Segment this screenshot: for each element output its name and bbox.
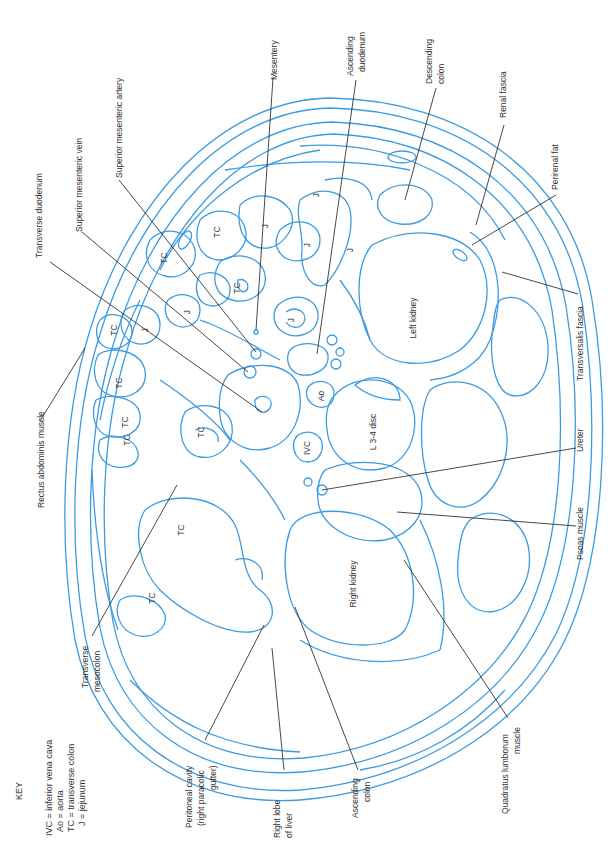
label-transverse-mesocolon-2: mesocolon <box>92 651 102 692</box>
organ-tc-7: TC <box>122 434 132 445</box>
label-peritoneal-cavity-2: (right paracolic <box>196 770 206 826</box>
organ-j-7: J <box>311 193 321 197</box>
organ-tc-1: TC <box>212 226 222 237</box>
key-entry-j: J = jejunum <box>77 780 87 826</box>
psoas-outline <box>318 462 422 540</box>
label-right-lobe-liver-1: Right lobe <box>272 799 282 838</box>
label-transverse-mesocolon-1: Transverse <box>80 646 90 688</box>
label-transverse-duodenum: Transverse duodenum <box>34 173 44 258</box>
label-quadratus-lumborum-1: Quadratus lumborum <box>500 734 510 814</box>
organ-j-1: J <box>260 224 270 228</box>
key-legend: KEY IVC = inferior vena cava Ao = aorta … <box>14 740 87 836</box>
label-descending-colon-1: Descending <box>424 39 434 84</box>
organ-j-2: J <box>302 243 312 247</box>
organ-right-kidney: Right kidney <box>348 560 358 608</box>
organ-outlines <box>93 178 548 661</box>
organ-disc: L 3-4 disc <box>368 413 378 450</box>
label-superior-mesenteric-vein: Superior mesenteric vein <box>74 138 84 232</box>
label-rectus-abdominis: Rectus abdominis muscle <box>36 411 46 508</box>
organ-tc-3: TC <box>232 282 242 293</box>
smv-outline <box>244 366 256 378</box>
descending-colon-outline <box>378 185 433 224</box>
organ-labels: Left kidney Right kidney L 3-4 disc Ao I… <box>109 193 418 608</box>
organ-j-5: J <box>182 310 192 314</box>
organ-tc-4: TC <box>109 324 119 335</box>
organ-left-kidney: Left kidney <box>408 297 418 339</box>
abdomen-cross-section-diagram: Left kidney Right kidney L 3-4 disc Ao I… <box>0 0 614 868</box>
organ-tc-2: TC <box>159 252 169 263</box>
organ-tc-6: TC <box>120 416 130 427</box>
label-superior-mesenteric-artery: Superior mesenteric artery <box>114 77 124 178</box>
label-ascending-colon-2: colon <box>362 781 372 802</box>
callout-labels: Transverse duodenum Superior mesenteric … <box>34 32 585 838</box>
organ-j-4: J <box>286 318 296 322</box>
label-right-lobe-liver-2: of liver <box>284 813 294 838</box>
label-mesentery: Mesentery <box>269 40 279 80</box>
organ-tc-10: TC <box>147 592 157 603</box>
sma-outline <box>251 349 261 359</box>
label-peritoneal-cavity-1: Peritoneal cavity <box>184 765 194 828</box>
organ-aorta: Ao <box>316 391 326 402</box>
organ-tc-9: TC <box>176 524 186 535</box>
organ-j-3: J <box>345 248 355 252</box>
label-peritoneal-cavity-3: gutter) <box>208 765 218 790</box>
key-title: KEY <box>14 782 24 800</box>
organ-tc-5: TC <box>114 377 124 388</box>
key-entry-ao: Ao = aorta <box>55 790 65 832</box>
label-renal-fascia: Renal fascia <box>498 71 508 118</box>
key-entry-ivc: IVC = inferior vena cava <box>44 740 54 836</box>
label-ascending-duodenum-2: duodenum <box>357 32 367 72</box>
key-entry-tc: TC = transverse colon <box>66 744 76 832</box>
label-ascending-colon-1: Ascending <box>350 778 360 818</box>
ascending-duodenum-outline <box>288 344 329 375</box>
label-perirenal-fat: Perirenal fat <box>550 144 560 190</box>
organ-ivc: IVC <box>302 441 312 455</box>
label-transversalis-fascia: Transversalis fascia <box>575 306 585 381</box>
left-kidney-outline <box>359 233 487 363</box>
label-quadratus-lumborum-2: muscle <box>512 727 522 754</box>
label-ascending-duodenum-1: Ascending <box>345 36 355 76</box>
label-psoas-muscle: Psoas muscle <box>575 507 585 560</box>
label-descending-colon-2: colon <box>436 63 446 84</box>
label-ureter: Ureter <box>575 428 585 452</box>
organ-tc-8: TC <box>196 426 206 437</box>
